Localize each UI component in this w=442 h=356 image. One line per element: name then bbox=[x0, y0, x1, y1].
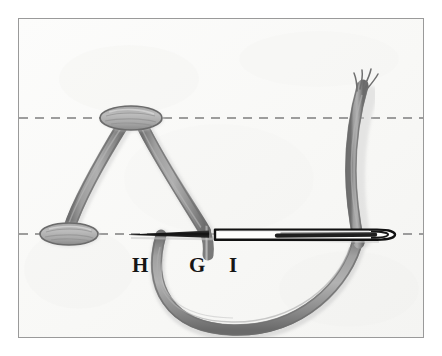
label-g: G bbox=[189, 255, 205, 276]
threaded-thread bbox=[277, 235, 375, 236]
label-i: I bbox=[229, 255, 237, 276]
figure-frame: H G I bbox=[18, 18, 424, 338]
stitch-diagram-svg bbox=[19, 19, 423, 337]
label-h: H bbox=[132, 255, 148, 276]
top-stitch-bar bbox=[100, 106, 164, 132]
figure-root: H G I bbox=[0, 0, 442, 356]
bottom-stitch-bar bbox=[40, 223, 100, 247]
